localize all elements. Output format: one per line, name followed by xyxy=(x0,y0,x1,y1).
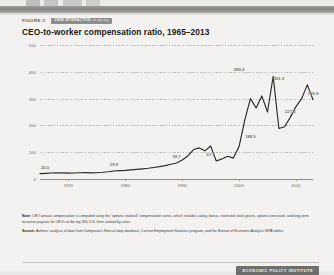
x-tick-mark-1990 xyxy=(182,179,183,181)
page-header-band xyxy=(0,6,334,13)
y-tick-label-200: 200 xyxy=(29,123,36,128)
y-tick-label-0: 0 xyxy=(34,177,36,182)
chart-line-series xyxy=(40,45,313,195)
source-paragraph: Source: Authors’ analysis of data from C… xyxy=(22,229,319,235)
data-label-351-3: 351.3 xyxy=(274,75,284,80)
x-tick-label-1970: 1970 xyxy=(64,183,74,188)
x-tick-label-1990: 1990 xyxy=(177,183,187,188)
data-label-188-5: 188.5 xyxy=(245,134,255,139)
source-lead: Source: xyxy=(22,229,35,233)
data-label-227-6: 227.6 xyxy=(285,109,295,114)
y-tick-label-400: 400 xyxy=(29,69,36,74)
figure-header: FIGURE C VIEW INTERACTIVE on epi.org xyxy=(22,18,112,24)
view-interactive-label: VIEW INTERACTIVE xyxy=(54,19,90,23)
view-interactive-site: on epi.org xyxy=(93,19,109,22)
figure-sheet: FIGURE C VIEW INTERACTIVE on epi.org CEO… xyxy=(0,15,334,274)
x-tick-mark-1980 xyxy=(125,179,126,181)
data-label-67-3: 67.3 xyxy=(207,151,215,156)
figure-label: FIGURE C xyxy=(22,18,46,23)
data-label-29-9: 29.9 xyxy=(110,161,118,166)
page-bottom-shadow xyxy=(0,270,334,274)
x-tick-mark-2010 xyxy=(296,179,297,181)
x-tick-mark-1970 xyxy=(68,179,69,181)
source-text: Authors’ analysis of data from Compustat… xyxy=(35,229,284,233)
y-tick-label-500: 500 xyxy=(29,43,36,48)
x-tick-label-2010: 2010 xyxy=(291,183,301,188)
figure-title: CEO-to-worker compensation ratio, 1965–2… xyxy=(22,27,209,37)
x-tick-label-1980: 1980 xyxy=(121,183,131,188)
figure-notes: Note: CEO annual compensation is compute… xyxy=(22,214,319,238)
y-tick-label-100: 100 xyxy=(29,150,36,155)
data-label-20-0: 20.0 xyxy=(41,164,49,169)
note-text: CEO annual compensation is computed usin… xyxy=(22,214,309,224)
chart-x-axis: 19701980199020002010 xyxy=(40,179,313,195)
note-paragraph: Note: CEO annual compensation is compute… xyxy=(22,214,319,225)
chart-plot: 0100200300400500 20.029.959.767.3383.418… xyxy=(40,45,313,195)
data-label-59-7: 59.7 xyxy=(172,154,180,159)
data-label-383-4: 383.4 xyxy=(234,67,244,72)
data-label-295-9: 295.9 xyxy=(308,90,318,95)
note-lead: Note: xyxy=(22,214,31,218)
view-interactive-badge[interactable]: VIEW INTERACTIVE on epi.org xyxy=(51,18,112,24)
x-tick-label-2000: 2000 xyxy=(234,183,244,188)
series-line xyxy=(40,76,313,173)
x-tick-mark-2000 xyxy=(239,179,240,181)
y-tick-label-300: 300 xyxy=(29,96,36,101)
footer-divider xyxy=(22,262,319,263)
chart-area: 0100200300400500 20.029.959.767.3383.418… xyxy=(22,41,317,211)
